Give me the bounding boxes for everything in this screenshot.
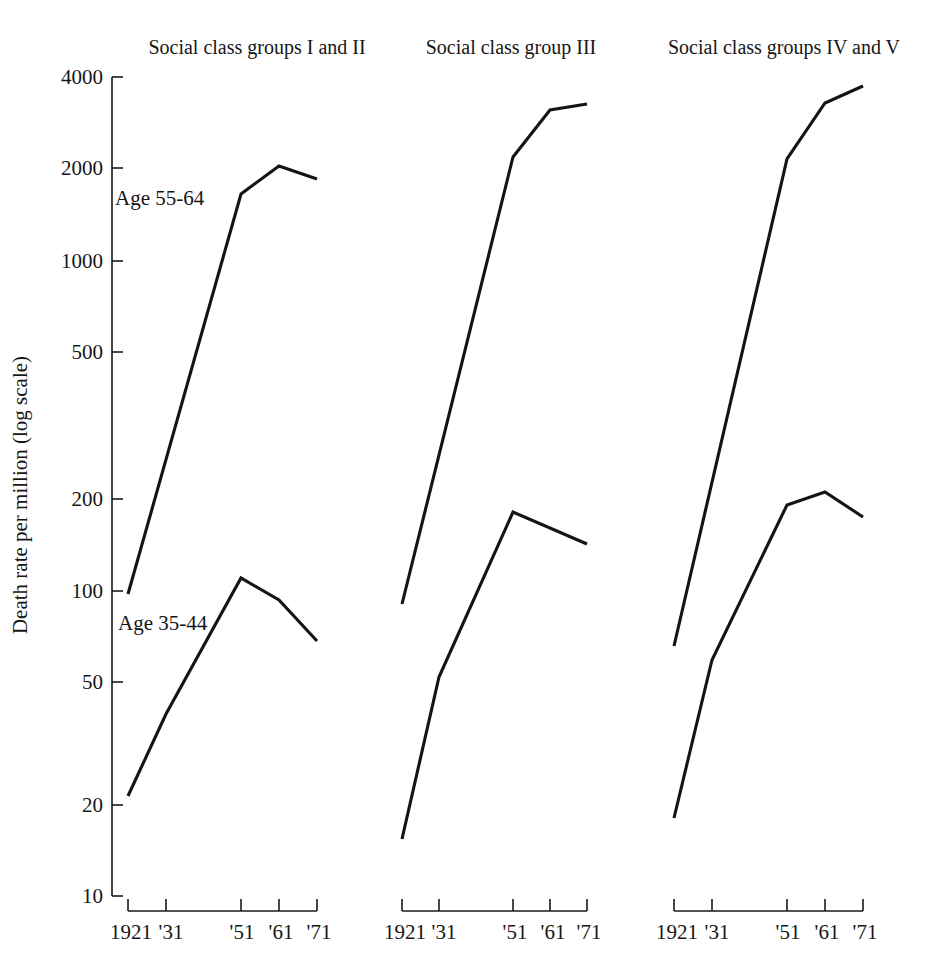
panel2-title: Social class group III [426,36,597,59]
panel1-x-axis: 1921 '31 '51 '61 '71 [110,899,331,944]
panel1-x-label-1921: 1921 [110,920,152,944]
panel3-x-label-1921: 1921 [656,920,698,944]
panel3-x-axis: 1921 '31 '51 '61 '71 [656,899,877,944]
panel1-x-label-71: '71 [307,920,332,944]
panel2-x-label-61: '61 [541,920,566,944]
y-tick-label-10: 10 [82,884,103,908]
panel3-series-age-35-44 [674,492,863,818]
panel3-x-label-61: '61 [815,920,840,944]
panel3-x-label-71: '71 [853,920,878,944]
y-tick-label-500: 500 [72,340,104,364]
y-tick-label-20: 20 [82,793,103,817]
y-axis: 4000 2000 1000 500 200 100 50 20 10 [61,65,123,908]
y-axis-title: Death rate per million (log scale) [8,356,32,634]
panel1-x-label-31: '31 [159,920,184,944]
panel2-x-label-31: '31 [432,920,457,944]
panel-social-class-groups-iv-and-v: Social class groups IV and V 1921 '31 '5… [656,36,901,944]
chart-figure: Death rate per million (log scale) 4000 … [0,0,928,978]
y-tick-label-1000: 1000 [61,249,103,273]
panel3-title: Social class groups IV and V [668,36,901,59]
panel-social-class-groups-i-and-ii: Social class groups I and II 1921 '31 '5… [110,36,366,944]
y-tick-label-200: 200 [72,487,104,511]
annotation-age-35-44: Age 35-44 [118,611,208,635]
y-tick-label-100: 100 [72,579,104,603]
panel2-series-age-35-44 [402,512,587,839]
panel1-x-label-51: '51 [230,920,255,944]
chart-svg: Death rate per million (log scale) 4000 … [0,0,928,978]
y-tick-label-4000: 4000 [61,65,103,89]
panel-social-class-group-iii: Social class group III 1921 '31 '51 '61 … [384,36,601,944]
panel2-x-label-1921: 1921 [384,920,426,944]
panel2-x-label-51: '51 [503,920,528,944]
panel1-title: Social class groups I and II [148,36,365,59]
panel3-x-label-31: '31 [705,920,730,944]
panel2-x-label-71: '71 [577,920,602,944]
y-tick-label-2000: 2000 [61,156,103,180]
panel3-x-label-51: '51 [776,920,801,944]
panel3-series-age-55-64 [674,86,863,646]
panel2-series-age-55-64 [402,104,587,604]
panel1-series-age-55-64 [128,166,317,594]
annotation-age-55-64: Age 55-64 [115,186,205,210]
y-tick-label-50: 50 [82,670,103,694]
panel2-x-axis: 1921 '31 '51 '61 '71 [384,899,601,944]
panel1-x-label-61: '61 [269,920,294,944]
